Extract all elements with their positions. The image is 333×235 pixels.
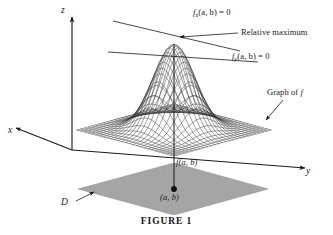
label-fy-equation: fy(a, b) = 0 <box>232 52 270 62</box>
label-graph-of-f: Graph of f <box>267 88 303 97</box>
axis-label-y: y <box>306 167 310 177</box>
figure-container: z x y fx(a, b) = 0 fy(a, b) = 0 Relative… <box>0 0 333 235</box>
label-fx-equation: fx(a, b) = 0 <box>193 8 231 18</box>
leader-relative-maximum <box>180 33 238 37</box>
fx-suffix: (a, b) = 0 <box>198 7 230 17</box>
figure-caption: FIGURE 1 <box>0 216 333 226</box>
axis-label-z: z <box>61 6 65 16</box>
label-domain-d: D <box>61 198 68 208</box>
leader-domain <box>76 192 94 201</box>
label-point-ab: (a, b) <box>160 193 179 202</box>
fy-suffix: (a, b) = 0 <box>237 51 269 61</box>
graph-of-f-glyph: f <box>300 87 302 97</box>
label-relative-maximum: Relative maximum <box>241 28 308 37</box>
leader-graph-of-f <box>266 100 283 120</box>
label-f-of-ab: f(a, b) <box>176 158 197 167</box>
axis-label-x: x <box>8 126 12 136</box>
x-axis <box>16 128 72 150</box>
graph-of-text: Graph of <box>267 87 300 97</box>
